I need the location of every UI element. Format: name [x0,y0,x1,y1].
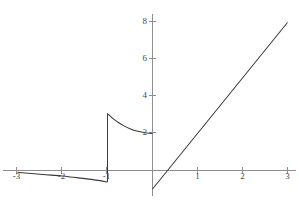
y-tick-label-4: 4 [133,91,147,100]
plot-canvas [0,0,299,202]
function-plot-figure: -3 -2 -1 1 2 3 2 4 6 8 [0,0,299,202]
y-tick-label-6: 6 [133,54,147,63]
x-tick-label-3: 3 [278,172,297,181]
x-tick-label-minus-3: -3 [6,172,27,181]
x-tick-label-2: 2 [233,172,252,181]
y-tick-label-2: 2 [133,128,147,137]
x-tick-label-minus-2: -2 [51,172,72,181]
curve-branch-right-linear [153,23,288,190]
y-tick-label-8: 8 [133,17,147,26]
x-tick-label-minus-1: -1 [96,172,117,181]
x-tick-label-1: 1 [188,172,207,181]
